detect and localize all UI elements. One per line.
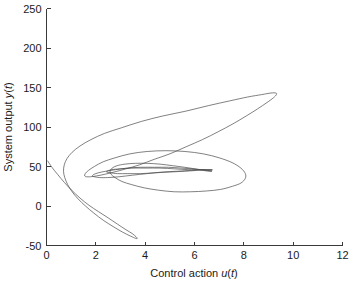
trajectory-line [48, 93, 277, 239]
x-tick-label: 8 [241, 249, 247, 261]
x-tick-label: 4 [142, 249, 148, 261]
y-axis-tick-labels: -50050100150200250 [23, 3, 41, 252]
x-tick-label: 10 [287, 249, 299, 261]
x-axis-title: Control action u(t) [150, 267, 237, 279]
y-tick-label: 150 [23, 82, 41, 94]
svg-text:System output y(t): System output y(t) [2, 82, 14, 171]
y-tick-label: 100 [23, 121, 41, 133]
y-tick-label: 0 [35, 200, 41, 212]
x-tick-label: 0 [43, 249, 49, 261]
x-tick-label: 6 [191, 249, 197, 261]
y-axis-ticks [47, 9, 51, 246]
x-tick-label: 12 [336, 249, 348, 261]
y-tick-label: 50 [29, 161, 41, 173]
y-tick-label: 200 [23, 42, 41, 54]
y-tick-label: 250 [23, 3, 41, 15]
x-axis-tick-labels: 024681012 [43, 249, 348, 261]
x-axis-ticks [47, 242, 343, 246]
axes-frame [47, 9, 343, 246]
data-series-group [48, 93, 277, 239]
phase-portrait-chart: 024681012 -50050100150200250 Control act… [0, 0, 349, 286]
axis-spines [47, 9, 343, 246]
y-tick-label: -50 [26, 240, 42, 252]
x-tick-label: 2 [93, 249, 99, 261]
svg-text:Control action u(t): Control action u(t) [150, 267, 237, 279]
y-axis-title: System output y(t) [2, 82, 14, 171]
figure-container: 024681012 -50050100150200250 Control act… [0, 0, 349, 286]
